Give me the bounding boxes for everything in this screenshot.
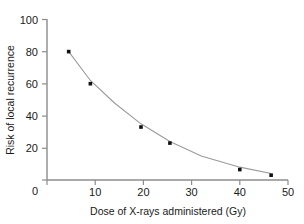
chart-figure: 100 80 60 40 20 0 10 20 30 40 50 Dose of…	[0, 0, 304, 224]
data-point-5	[238, 168, 242, 172]
x-tick-label-30: 30	[185, 186, 197, 198]
y-tick-label-80: 80	[26, 46, 38, 58]
x-tick-label-50: 50	[282, 186, 294, 198]
y-axis-title: Risk of local recurrence	[4, 45, 16, 155]
data-point-6	[269, 173, 273, 177]
data-points	[67, 50, 273, 177]
x-tick-label-10: 10	[89, 186, 101, 198]
fitted-curve	[69, 52, 271, 174]
x-tick-label-40: 40	[234, 186, 246, 198]
y-tick-label-100: 100	[20, 14, 38, 26]
x-axis-title: Dose of X-rays administered (Gy)	[90, 205, 246, 217]
x-axis-ticks	[47, 180, 288, 185]
x-tick-label-20: 20	[137, 186, 149, 198]
scatter-plot: 100 80 60 40 20 0 10 20 30 40 50 Dose of…	[0, 0, 304, 224]
y-tick-label-60: 60	[26, 78, 38, 90]
data-point-4	[168, 141, 172, 145]
data-point-3	[139, 125, 143, 129]
y-axis-ticks	[42, 20, 47, 181]
y-tick-label-40: 40	[26, 110, 38, 122]
data-point-2	[89, 82, 93, 86]
y-tick-label-20: 20	[26, 142, 38, 154]
data-point-1	[67, 50, 71, 54]
y-tick-label-0: 0	[32, 185, 38, 197]
